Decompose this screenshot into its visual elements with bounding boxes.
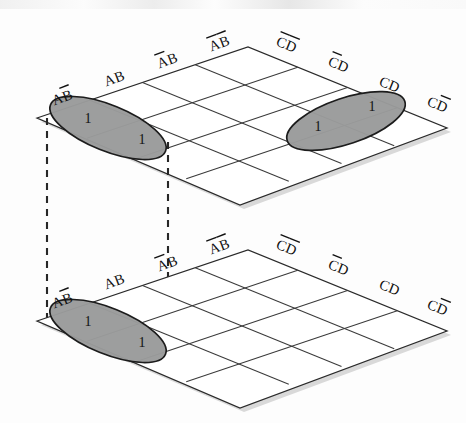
lower-cell-1-b: 1 [139, 335, 146, 350]
lower-label-cd-3: CD [425, 296, 450, 319]
upper-label-ab-2: AB [155, 49, 180, 71]
upper-label-ab-3: AB [207, 32, 232, 54]
upper-cell-1-d: 1 [369, 99, 376, 114]
lower-label-ab-1: AB [102, 270, 127, 292]
upper-label-cd-1: CD [326, 53, 351, 76]
upper-cell-1-a: 1 [85, 111, 92, 126]
upper-cell-1-b: 1 [139, 132, 146, 147]
lower-cell-1-a: 1 [85, 314, 92, 329]
kmap-canvas: 1 1 1 1 AB AB AB AB CD CD CD CD [0, 0, 466, 423]
upper-cell-1-c: 1 [315, 119, 322, 134]
lower-label-ab-2: AB [155, 252, 180, 274]
lower-label-cd-2: CD [377, 276, 402, 299]
lower-map: 1 1 AB AB AB AB CD CD CD CD [37, 235, 451, 412]
upper-label-cd-3: CD [425, 93, 450, 116]
lower-label-ab-3: AB [207, 235, 232, 257]
kmap-figure: 1 1 1 1 AB AB AB AB CD CD CD CD [0, 0, 466, 423]
upper-map: 1 1 1 1 AB AB AB AB CD CD CD CD [37, 32, 451, 209]
lower-label-cd-0: CD [274, 236, 299, 259]
lower-label-cd-1: CD [326, 256, 351, 279]
upper-label-ab-1: AB [102, 67, 127, 89]
upper-label-cd-0: CD [274, 33, 299, 56]
